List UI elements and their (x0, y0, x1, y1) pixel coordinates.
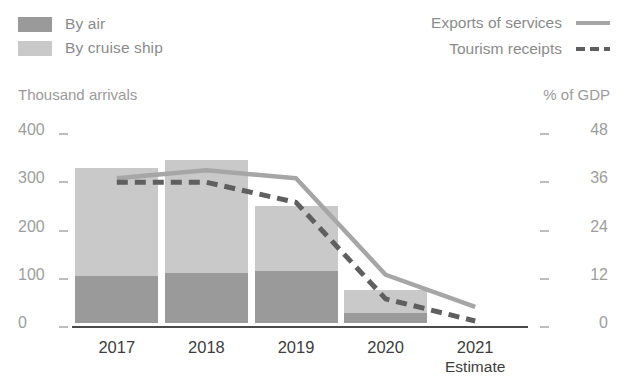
bar-2019 (255, 206, 338, 323)
y-tick-label-right: 48 (590, 121, 608, 139)
x-tick-label-2018: 2018 (188, 338, 225, 357)
chart-container: By air By cruise ship Exports of service… (0, 0, 624, 383)
y-tick-mark-left (59, 230, 68, 232)
bar-2018 (165, 160, 248, 323)
y-tick-label-right: 36 (590, 169, 608, 187)
bar-segment-by-cruise-ship (255, 206, 338, 271)
y-tick-label-left: 200 (18, 218, 45, 236)
y-tick-mark-left (59, 133, 68, 135)
y-tick-mark-right (540, 181, 549, 183)
y-tick-label-left: 400 (18, 121, 45, 139)
y-tick-mark-right (540, 230, 549, 232)
bar-segment-by-air (255, 271, 338, 323)
y-tick-mark-left (59, 278, 68, 280)
bar-segment-by-cruise-ship (165, 160, 248, 272)
x-tick-label-2020: 2020 (367, 338, 404, 357)
bar-2020 (344, 290, 427, 323)
x-tick-label-2017: 2017 (98, 338, 135, 357)
plot-area: 0100200300400012243648201720182019202020… (0, 0, 624, 383)
y-tick-label-left: 100 (18, 266, 45, 284)
bar-segment-by-air (344, 313, 427, 323)
y-tick-mark-right (540, 326, 549, 328)
x-tick-sublabel-estimate: Estimate (445, 358, 505, 376)
y-tick-mark-right (540, 133, 549, 135)
bar-segment-by-cruise-ship (75, 168, 158, 276)
bar-segment-by-air (75, 276, 158, 323)
bar-2017 (75, 168, 158, 323)
x-tick-label-2019: 2019 (278, 338, 315, 357)
y-tick-label-right: 24 (590, 218, 608, 236)
x-tick-label-2021: 2021Estimate (445, 338, 505, 376)
x-axis-line (72, 326, 528, 328)
y-tick-label-right: 0 (599, 314, 608, 332)
y-tick-label-left: 300 (18, 169, 45, 187)
y-tick-label-left: 0 (18, 314, 27, 332)
y-tick-mark-left (59, 181, 68, 183)
y-tick-mark-left (59, 326, 68, 328)
y-tick-label-right: 12 (590, 266, 608, 284)
bar-segment-by-cruise-ship (344, 290, 427, 313)
bar-segment-by-air (165, 273, 248, 323)
y-tick-mark-right (540, 278, 549, 280)
